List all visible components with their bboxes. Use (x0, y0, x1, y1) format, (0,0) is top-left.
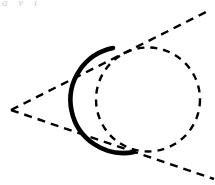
tangent-circle (96, 48, 200, 152)
lower-tangent-line (11, 110, 214, 179)
geometry-figure: g y j (0, 0, 215, 185)
upper-tangent-line (11, 11, 208, 110)
figure-canvas (0, 0, 215, 185)
